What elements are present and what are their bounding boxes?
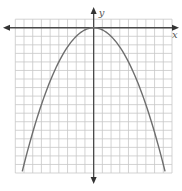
y-axis-arrow-up — [91, 7, 97, 14]
x-axis-arrow-left — [3, 25, 10, 31]
x-axis-label: x — [172, 29, 178, 40]
parabola-chart: x y — [0, 0, 182, 191]
y-axis-arrow-down — [91, 177, 97, 184]
y-axis-label: y — [98, 7, 105, 18]
